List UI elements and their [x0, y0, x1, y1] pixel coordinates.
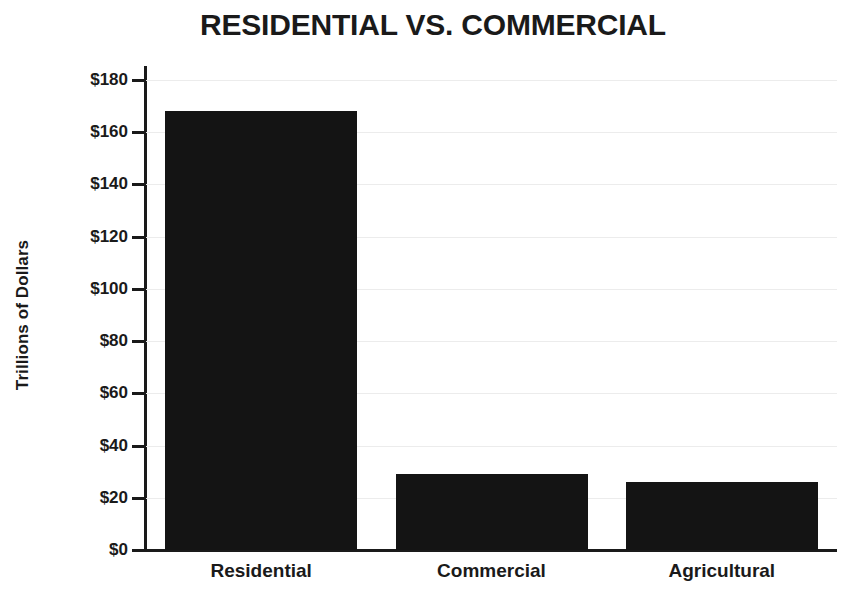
y-axis-tick-label-text: $40 — [40, 437, 128, 454]
y-axis-tick-label-text: $0 — [40, 541, 128, 558]
y-axis-tick — [132, 392, 145, 395]
bar — [165, 111, 357, 550]
y-axis-tick — [132, 445, 145, 448]
gridline — [146, 80, 837, 81]
y-axis-tick — [132, 340, 145, 343]
y-axis-tick-label: $60 — [32, 384, 128, 401]
y-axis-tick-label: $0 — [32, 541, 128, 558]
y-axis-tick-label: $40 — [32, 437, 128, 454]
bar — [396, 474, 588, 550]
x-axis-label: Commercial — [376, 560, 606, 582]
y-axis-tick — [132, 131, 145, 134]
y-axis-tick-label: $120 — [32, 228, 128, 245]
y-axis-tick — [132, 288, 145, 291]
y-axis-tick-label: $80 — [32, 332, 128, 349]
y-axis-tick-label: $100 — [32, 280, 128, 297]
y-axis-title: Trillions of Dollars — [0, 80, 46, 550]
y-axis-tick-label: $140 — [32, 175, 128, 192]
y-axis-tick — [132, 79, 145, 82]
plot-area — [146, 80, 837, 550]
y-axis-tick-label-text: $80 — [40, 332, 128, 349]
y-axis-tick — [132, 183, 145, 186]
y-axis-tick-label-text: $180 — [40, 71, 128, 88]
y-axis-tick — [132, 497, 145, 500]
y-axis-tick-label: $160 — [32, 123, 128, 140]
x-axis-label: Agricultural — [607, 560, 837, 582]
y-axis-tick-label-text: $140 — [40, 175, 128, 192]
y-axis-tick-label-text: $60 — [40, 384, 128, 401]
y-axis-tick-label-text: $100 — [40, 280, 128, 297]
bar-chart: RESIDENTIAL VS. COMMERCIAL Trillions of … — [0, 0, 866, 613]
y-axis-tick — [132, 236, 145, 239]
bar — [626, 482, 818, 550]
y-axis-tick-label-text: $160 — [40, 123, 128, 140]
y-axis-tick-label-text: $120 — [40, 228, 128, 245]
y-axis-title-text: Trillions of Dollars — [13, 240, 33, 390]
y-axis-tick-label: $20 — [32, 489, 128, 506]
x-axis-label: Residential — [146, 560, 376, 582]
y-axis-tick-label: $180 — [32, 71, 128, 88]
chart-title: RESIDENTIAL VS. COMMERCIAL — [0, 6, 866, 44]
y-axis-tick-label-text: $20 — [40, 489, 128, 506]
y-axis-tick — [132, 549, 145, 552]
